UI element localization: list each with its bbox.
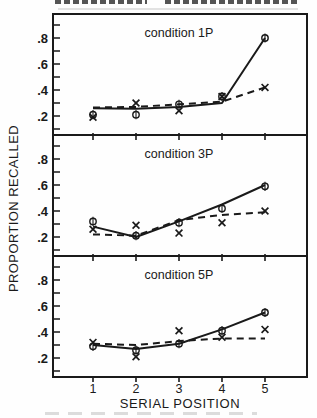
y-tick-label: .4 (37, 204, 49, 219)
y-tick-label: .6 (37, 178, 48, 193)
y-tick-label: .6 (37, 57, 48, 72)
y-tick-label: .6 (37, 299, 48, 314)
plot-frame (53, 14, 307, 377)
y-tick-label: .4 (37, 83, 49, 98)
y-tick-label: .2 (37, 351, 48, 366)
y-tick-label: .2 (37, 109, 48, 124)
y-tick-label: .4 (37, 325, 49, 340)
x-tick-label: 3 (176, 382, 183, 396)
y-tick-label: .8 (37, 31, 48, 46)
x-tick-label: 2 (133, 382, 140, 396)
cropped-caption-remnant (45, 412, 257, 415)
series-line-solid (93, 185, 265, 237)
panel-label: condition 3P (145, 147, 214, 161)
y-tick-label: .8 (37, 152, 48, 167)
panel-label: condition 1P (145, 26, 214, 40)
figure-canvas: PROPORTION RECALLED .2.4.6.8condition 1P… (0, 0, 317, 418)
y-tick-label: .8 (37, 273, 48, 288)
serial-position-chart: .2.4.6.8condition 1P.2.4.6.8condition 3P… (0, 0, 317, 418)
x-tick-label: 5 (262, 382, 269, 396)
x-tick-label: 4 (219, 382, 226, 396)
series-line-solid (93, 38, 265, 109)
y-tick-label: .2 (37, 230, 48, 245)
x-axis-title: SERIAL POSITION (53, 396, 307, 411)
panel-label: condition 5P (145, 268, 214, 282)
x-tick-label: 1 (90, 382, 97, 396)
